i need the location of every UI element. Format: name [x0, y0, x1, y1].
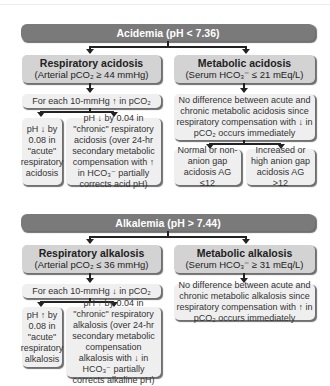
metabolic-alkalosis-criteria: (Serum HCO₃⁻ ≥ 31 mEq/L) — [185, 259, 303, 271]
respiratory-acidosis-title: Respiratory acidosis — [40, 57, 143, 69]
metabolic-acidosis-note: No difference between acute and chronic … — [176, 95, 313, 139]
arrow-down-icon — [86, 49, 94, 54]
arrow-down-icon — [86, 239, 94, 244]
normal-anion-gap-box: Normal or non-anion gap acidosis AG ≤12 — [174, 149, 241, 185]
respiratory-alkalosis-step: For each 10-mmHg ↓ in pCO₂ — [32, 286, 151, 297]
metabolic-acidosis-criteria: (Serum HCO₃⁻ ≤ 21 mEq/L) — [185, 69, 303, 81]
metabolic-acidosis-title: Metabolic acidosis — [198, 57, 291, 69]
page-top-rule — [0, 4, 330, 5]
respiratory-alkalosis-step-box: For each 10-mmHg ↓ in pCO₂ — [22, 284, 161, 298]
arrow-down-icon — [240, 88, 248, 93]
respiratory-acidosis-criteria: (Arterial pCO₂ ≥ 44 mmHg) — [35, 69, 149, 81]
arrow-down-icon — [86, 88, 94, 93]
acidemia-header-label: Acidemia (pH < 7.36) — [117, 27, 220, 39]
metabolic-alkalosis-box: Metabolic alkalosis (Serum HCO₃⁻ ≥ 31 mE… — [174, 245, 315, 273]
metabolic-alkalosis-title: Metabolic alkalosis — [197, 247, 293, 259]
connector — [89, 46, 246, 48]
acute-respiratory-alkalosis-box: pH ↑ by 0.08 in "acute" respiratory alka… — [22, 307, 62, 367]
respiratory-acidosis-box: Respiratory acidosis (Arterial pCO₂ ≥ 44… — [22, 55, 161, 83]
metabolic-acidosis-box: Metabolic acidosis (Serum HCO₃⁻ ≤ 21 mEq… — [174, 55, 315, 83]
chronic-respiratory-acidosis-text: pH ↓ by 0.04 in "chronic" respiratory ac… — [68, 113, 159, 190]
arrow-down-icon — [242, 239, 250, 244]
respiratory-acidosis-step-box: For each 10-mmHg ↑ in pCO₂ — [22, 94, 161, 108]
chronic-respiratory-alkalosis-box: pH ↑ by 0.04 in "chronic" respiratory al… — [66, 307, 161, 377]
chronic-respiratory-acidosis-box: pH ↓ by 0.04 in "chronic" respiratory ac… — [66, 118, 161, 185]
alkalemia-header: Alkalemia (pH > 7.44) — [21, 214, 315, 231]
acute-respiratory-alkalosis-text: pH ↑ by 0.08 in "acute" respiratory alka… — [21, 310, 64, 365]
alkalemia-header-label: Alkalemia (pH > 7.44) — [115, 217, 220, 229]
metabolic-alkalosis-note: No difference between acute and chronic … — [176, 280, 313, 324]
chronic-respiratory-alkalosis-text: pH ↑ by 0.04 in "chronic" respiratory al… — [68, 298, 159, 386]
metabolic-acidosis-note-box: No difference between acute and chronic … — [174, 94, 315, 140]
arrow-down-icon — [37, 112, 45, 117]
respiratory-alkalosis-criteria: (Arterial pCO₂ ≤ 36 mmHg) — [35, 259, 149, 271]
acute-respiratory-acidosis-text: pH ↓ by 0.08 in "acute" respiratory acid… — [21, 124, 64, 179]
respiratory-alkalosis-title: Respiratory alkalosis — [39, 247, 145, 259]
connector — [89, 236, 246, 238]
high-anion-gap-text: Increased or high anion gap acidosis AG … — [248, 145, 313, 189]
respiratory-acidosis-step: For each 10-mmHg ↑ in pCO₂ — [32, 96, 151, 107]
acidemia-header: Acidemia (pH < 7.36) — [21, 24, 315, 41]
high-anion-gap-box: Increased or high anion gap acidosis AG … — [246, 149, 315, 185]
normal-anion-gap-text: Normal or non-anion gap acidosis AG ≤12 — [176, 145, 239, 189]
metabolic-alkalosis-note-box: No difference between acute and chronic … — [174, 284, 315, 320]
arrow-down-icon — [242, 49, 250, 54]
respiratory-alkalosis-box: Respiratory alkalosis (Arterial pCO₂ ≤ 3… — [22, 245, 161, 273]
arrow-down-icon — [86, 278, 94, 283]
acute-respiratory-acidosis-box: pH ↓ by 0.08 in "acute" respiratory acid… — [22, 118, 62, 185]
